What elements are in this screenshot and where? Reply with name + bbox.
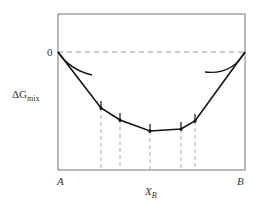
point-dots: [99, 106, 196, 132]
diagram-canvas: [0, 0, 260, 212]
x-label-main: X: [145, 185, 152, 197]
y-label-main: ΔG: [12, 88, 27, 100]
y-label-sub: mix: [27, 94, 39, 103]
x-label-sub: B: [152, 191, 157, 200]
right-end-label: B: [237, 176, 244, 187]
tangent-polyline: [58, 52, 245, 131]
left-curve: [58, 52, 92, 75]
zero-label: 0: [47, 47, 53, 58]
left-end-label: A: [57, 176, 64, 187]
right-curve: [205, 52, 245, 72]
x-axis-label: XB: [145, 186, 157, 200]
y-axis-label: ΔGmix: [12, 89, 39, 103]
